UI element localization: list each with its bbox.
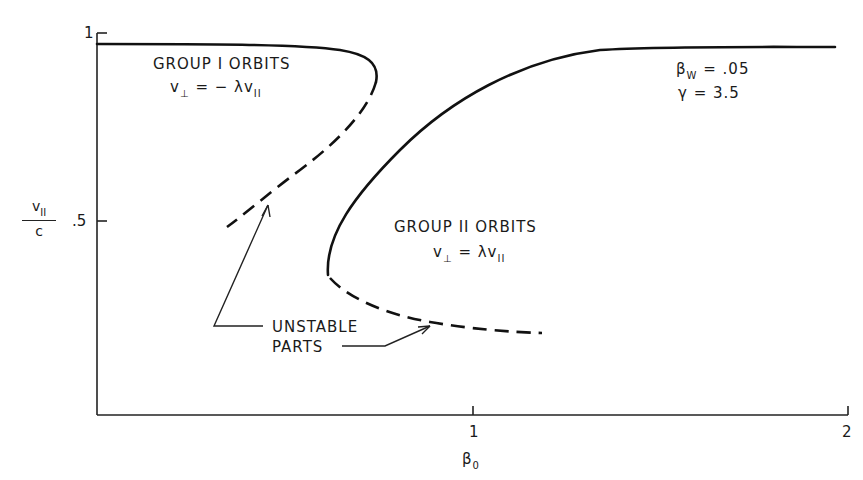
beta-w-sub: W <box>687 70 698 81</box>
param-beta-w: βW = .05 <box>676 60 749 81</box>
group2-eq-lhs: v <box>433 243 443 261</box>
beta-w-sym: β <box>676 60 687 78</box>
group2-title: GROUP II ORBITS <box>394 218 537 236</box>
x-tick-label-1: 1 <box>469 423 479 441</box>
y-axis-num-sub: II <box>40 207 46 218</box>
group2-eq-rhs-sub: II <box>497 253 505 264</box>
group1-eq-rhs-sub: II <box>254 88 262 99</box>
group1-eq-lhs: v <box>170 78 180 96</box>
group1-equation: v⊥ = − λvII <box>170 78 262 99</box>
unstable-label-line1: UNSTABLE <box>272 318 358 336</box>
group1-eq-rhs: = − λv <box>190 78 254 96</box>
group2-stable-curve <box>328 47 835 275</box>
group2-equation: v⊥ = λvII <box>433 243 505 264</box>
beta-w-val: = .05 <box>697 60 749 78</box>
y-axis-num: v <box>32 198 40 214</box>
x-axis-label: β0 <box>462 450 480 471</box>
x-axis-sym: β <box>462 450 473 468</box>
y-axis-den: c <box>22 221 56 239</box>
group1-unstable-curve <box>227 82 376 227</box>
y-axis-label: vII c <box>22 198 56 239</box>
group2-unstable-curve <box>330 278 542 333</box>
y-tick-label-1: 1 <box>84 24 94 42</box>
group2-eq-rhs: = λv <box>453 243 498 261</box>
param-gamma: γ = 3.5 <box>678 84 740 102</box>
group1-eq-lhs-sub: ⊥ <box>180 88 190 99</box>
unstable-leader-left <box>214 205 268 326</box>
x-tick-label-2: 2 <box>842 423 852 441</box>
unstable-label-line2: PARTS <box>272 338 323 356</box>
group1-title: GROUP I ORBITS <box>153 55 290 73</box>
group2-eq-lhs-sub: ⊥ <box>443 253 453 264</box>
y-tick-label-05: .5 <box>72 212 86 230</box>
x-axis-sub: 0 <box>473 460 480 471</box>
